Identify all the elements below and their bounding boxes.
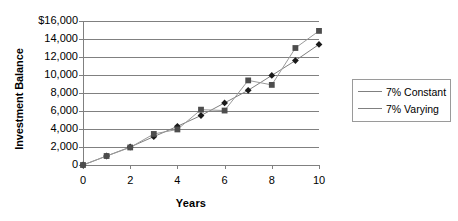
data-point-square xyxy=(316,28,322,34)
legend-item-label: 7% Varying xyxy=(383,103,439,115)
data-point-diamond xyxy=(316,41,323,48)
data-point-square xyxy=(80,162,86,168)
legend-item-7-varying[interactable]: 7% Varying xyxy=(357,100,446,117)
square-marker-icon xyxy=(357,102,383,115)
investment-balance-chart: Investment Balance 02,0004,0006,0008,000… xyxy=(0,0,458,221)
data-point-diamond xyxy=(245,87,252,94)
gridlines xyxy=(83,22,319,166)
data-point-diamond xyxy=(198,112,205,119)
data-point-square xyxy=(175,127,181,133)
data-point-square xyxy=(104,153,110,159)
x-axis-title: Years xyxy=(60,197,322,209)
series-line xyxy=(83,44,319,165)
data-point-square xyxy=(151,131,157,137)
legend-item-7-constant[interactable]: 7% Constant xyxy=(357,83,446,100)
data-point-square xyxy=(245,78,251,84)
data-point-square xyxy=(222,108,228,114)
series-1 xyxy=(80,41,323,168)
series-line xyxy=(83,31,319,165)
diamond-marker-icon xyxy=(357,85,383,98)
data-point-square xyxy=(127,145,133,151)
legend-item-label: 7% Constant xyxy=(383,86,446,98)
data-point-diamond xyxy=(292,57,299,64)
data-point-square xyxy=(198,107,204,113)
series-2 xyxy=(80,28,322,168)
data-point-square xyxy=(269,82,275,88)
data-point-diamond xyxy=(268,72,275,79)
data-point-square xyxy=(293,45,299,51)
y-axis-ticks xyxy=(79,22,83,166)
data-point-diamond xyxy=(221,100,228,107)
chart-legend: 7% Constant 7% Varying xyxy=(352,79,451,122)
